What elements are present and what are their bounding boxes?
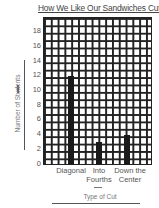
x-label-line: Into — [85, 166, 113, 175]
x-label-line: Center — [112, 175, 148, 184]
y-tick: 18 — [29, 26, 41, 35]
bar-down-the-center — [124, 135, 130, 165]
y-tick: 6 — [29, 114, 41, 123]
x-label-into-fourths: Into Fourths — [85, 166, 113, 184]
y-axis-title: Number of Students — [14, 74, 21, 134]
y-tick: 16 — [29, 41, 41, 50]
x-label-line: Fourths — [85, 175, 113, 184]
x-label-down-the-center: Down the Center — [112, 166, 148, 184]
x-axis-mark — [94, 187, 102, 188]
y-tick: 2 — [29, 144, 41, 153]
y-tick: 10 — [29, 85, 41, 94]
y-tick: 0 — [29, 159, 41, 168]
y-tick: 12 — [29, 70, 41, 79]
bar-diagonal — [68, 76, 74, 165]
chart-title: How We Like Our Sandwiches Cut — [38, 3, 156, 13]
y-tick: 14 — [29, 56, 41, 65]
bar-into-fourths — [96, 142, 102, 165]
x-axis-title: Type of Cut — [60, 193, 140, 200]
y-tick: 4 — [29, 129, 41, 138]
x-axis-line — [52, 203, 140, 204]
y-tick: 8 — [29, 100, 41, 109]
x-label-diagonal: Diagonal — [55, 166, 87, 175]
y-axis-line — [24, 60, 25, 150]
x-label-line: Down the — [112, 166, 148, 175]
